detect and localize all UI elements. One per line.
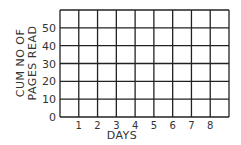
x-tick-label: 7	[188, 120, 194, 131]
chart-svg: 01020304050 12345678 DAYS CUM NO OF PAGE…	[0, 0, 241, 145]
y-tick-label: 0	[49, 111, 56, 124]
y-tick-label: 20	[42, 75, 56, 88]
y-tick-label: 40	[42, 40, 56, 53]
x-tick-label: 2	[94, 120, 100, 131]
x-axis-ticks: 12345678	[76, 120, 214, 131]
y-axis-label-line-2: PAGES READ	[26, 26, 39, 101]
y-axis-label: CUM NO OF PAGES READ	[14, 26, 39, 101]
x-tick-label: 6	[169, 120, 175, 131]
y-tick-label: 30	[42, 58, 56, 71]
y-tick-label: 50	[42, 22, 56, 35]
chart: 01020304050 12345678 DAYS CUM NO OF PAGE…	[0, 0, 241, 145]
x-tick-label: 5	[151, 120, 157, 131]
grid	[60, 10, 229, 117]
x-axis-label: DAYS	[107, 129, 138, 142]
y-tick-label: 10	[42, 93, 56, 106]
y-axis-ticks: 01020304050	[42, 22, 56, 124]
x-tick-label: 8	[207, 120, 213, 131]
x-tick-label: 1	[76, 120, 82, 131]
